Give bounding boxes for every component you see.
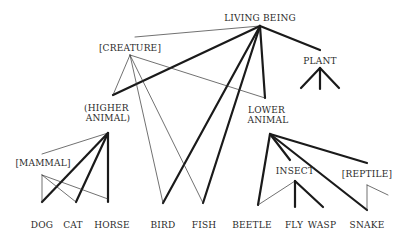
node-fly: FLY <box>285 220 304 230</box>
edge-reptile-to-unnamed-reptile-child <box>367 185 388 195</box>
edge-lower-animal-to-reptile <box>270 134 367 163</box>
node-wasp: WASP <box>308 220 336 230</box>
node-insect: INSECT <box>276 166 314 176</box>
node-higher-animal: (HIGHER ANIMAL) <box>84 103 132 123</box>
node-reptile: [REPTILE] <box>342 169 392 179</box>
edge-plant-to-unnamed-plant-child-3 <box>320 68 339 88</box>
node-horse: HORSE <box>94 220 130 230</box>
node-creature: [CREATURE] <box>99 43 161 53</box>
node-cat: CAT <box>63 220 83 230</box>
edge-insect-to-beetle <box>258 181 295 205</box>
node-bird: BIRD <box>151 220 176 230</box>
taxonomy-diagram: LIVING BEING [CREATURE] PLANT (HIGHER AN… <box>0 0 406 238</box>
edge-living-being-to-plant <box>260 26 320 50</box>
node-lower-animal-line-1: LOWER <box>248 105 285 115</box>
edge-insect-to-wasp <box>295 181 323 207</box>
edge-plant-to-unnamed-plant-child-1 <box>301 68 320 88</box>
node-mammal: [MAMMAL] <box>15 158 70 168</box>
edge-creature-to-bird <box>130 55 163 203</box>
node-snake: SNAKE <box>350 220 385 230</box>
node-fish: FISH <box>192 220 217 230</box>
edge-higher-animal-to-cat <box>76 133 108 202</box>
node-higher-animal-line-1: (HIGHER <box>84 103 129 113</box>
node-beetle: BEETLE <box>232 220 272 230</box>
node-plant: PLANT <box>303 56 336 66</box>
edge-creature-to-fish <box>130 55 203 203</box>
edge-living-being-to-lower-animal <box>260 26 265 98</box>
edge-lower-animal-to-beetle <box>258 134 270 205</box>
node-lower-animal-line-2: ANIMAL <box>247 115 289 125</box>
edge-living-being-to-higher-animal <box>113 26 260 95</box>
node-living-being: LIVING BEING <box>224 13 296 23</box>
node-higher-animal-line-2: ANIMAL) <box>85 113 131 123</box>
edge-mammal-to-horse <box>42 175 108 199</box>
node-dog: DOG <box>31 220 53 230</box>
node-lower-animal: LOWER ANIMAL <box>247 105 289 125</box>
